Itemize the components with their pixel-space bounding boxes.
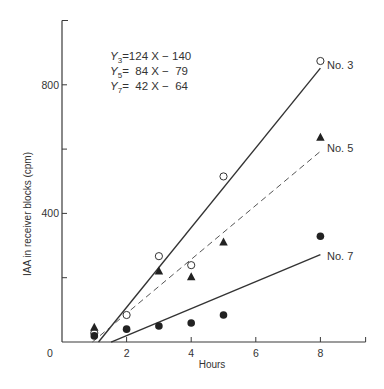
point-no-3 [155,253,162,260]
fit-line-no-7 [111,255,320,342]
point-no-7 [187,319,195,327]
point-no-7 [220,311,228,319]
x-tick-label: 6 [253,347,259,359]
equation-no7: Y7= 42 X − 64 [110,80,189,95]
x-tick-label: 8 [317,347,323,359]
point-no-3 [188,262,195,269]
point-no-7 [91,332,99,340]
chart: 4008002468 0 Hours IAA in receiver block… [0,0,384,389]
origin-label: 0 [47,347,53,359]
series-label-no7: No. 7 [327,250,353,262]
point-no-5 [187,272,196,280]
point-no-7 [123,325,131,333]
data-points [90,57,325,339]
point-no-3 [317,57,324,64]
point-no-7 [317,232,325,240]
equation-no5: Y5= 84 X − 79 [110,65,188,80]
x-tick-label: 2 [124,347,130,359]
point-no-5 [219,238,228,246]
fit-lines [92,68,320,342]
equations: Y3=124 X − 140 Y5= 84 X − 79 Y7= 42 X − … [110,50,191,95]
point-no-3 [220,173,227,180]
point-no-5 [90,323,99,331]
series-label-no5: No. 5 [327,142,353,154]
y-tick-label: 800 [41,79,59,91]
point-no-7 [155,322,163,330]
series-label-no3: No. 3 [327,59,353,71]
point-no-5 [316,133,325,141]
y-tick-label: 400 [41,207,59,219]
y-axis-label: IAA in receiver blocks (cpm) [22,152,33,276]
point-no-3 [123,311,130,318]
equation-no3: Y3=124 X − 140 [110,50,191,65]
x-axis-label: Hours [199,359,226,370]
x-tick-label: 4 [188,347,194,359]
